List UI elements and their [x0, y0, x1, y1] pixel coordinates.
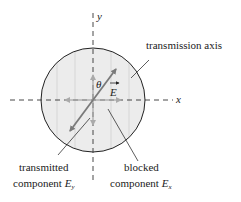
transmission-axis-label: transmission axis: [146, 39, 222, 51]
y-axis-label: y: [96, 10, 102, 22]
transmitted-label-line1: transmitted: [19, 161, 69, 173]
polarizer-diagram: y x θ E transmission axis transmitted co…: [0, 0, 241, 202]
theta-label: θ: [96, 78, 102, 90]
blocked-label-line1: blocked: [124, 161, 159, 173]
x-axis-label: x: [175, 93, 181, 105]
e-field-label: E: [109, 86, 117, 98]
transmitted-label-line2: component Ey: [13, 177, 75, 191]
blocked-label-line2: component Ex: [110, 177, 172, 191]
